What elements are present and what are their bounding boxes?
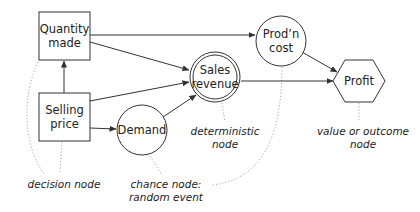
node-label: Quantity xyxy=(40,22,90,36)
edge-cost-profit xyxy=(302,52,337,72)
annotation-deterministic-node: deterministic xyxy=(190,125,259,137)
node-label: revenue xyxy=(191,77,238,91)
node-label: cost xyxy=(269,41,293,55)
node-label: Sales xyxy=(200,63,231,77)
annotation-decision-node: decision node xyxy=(28,178,101,190)
leader-chance xyxy=(150,156,162,175)
annotation-value-node-2: node xyxy=(350,138,376,150)
node-quantity-made: Quantity made xyxy=(39,12,90,60)
node-label: Prod’n xyxy=(263,27,300,41)
node-sales-revenue: Sales revenue xyxy=(190,52,240,102)
edge-quantity-sales xyxy=(90,42,189,70)
node-label: Demand xyxy=(118,123,167,137)
edge-price-demand xyxy=(90,128,116,129)
leader-deterministic xyxy=(222,103,225,122)
annotation-random-event: random event xyxy=(129,191,204,203)
node-label: Profit xyxy=(344,74,374,88)
leader-decision-price xyxy=(60,142,62,172)
node-prodn-cost: Prod’n cost xyxy=(256,16,306,66)
node-demand: Demand xyxy=(117,105,167,155)
node-label: made xyxy=(48,36,81,50)
edge-demand-sales xyxy=(163,95,196,117)
annotation-deterministic-node-2: node xyxy=(212,138,238,150)
edge-price-sales xyxy=(90,82,189,101)
node-label: Selling xyxy=(45,103,84,117)
node-profit: Profit xyxy=(333,60,385,102)
influence-diagram: Quantity made Selling price Demand Sales… xyxy=(0,0,420,212)
node-selling-price: Selling price xyxy=(39,93,90,141)
annotation-value-node: value or outcome xyxy=(317,125,409,137)
annotation-chance-node: chance node: xyxy=(131,178,202,190)
node-label: price xyxy=(50,117,79,131)
